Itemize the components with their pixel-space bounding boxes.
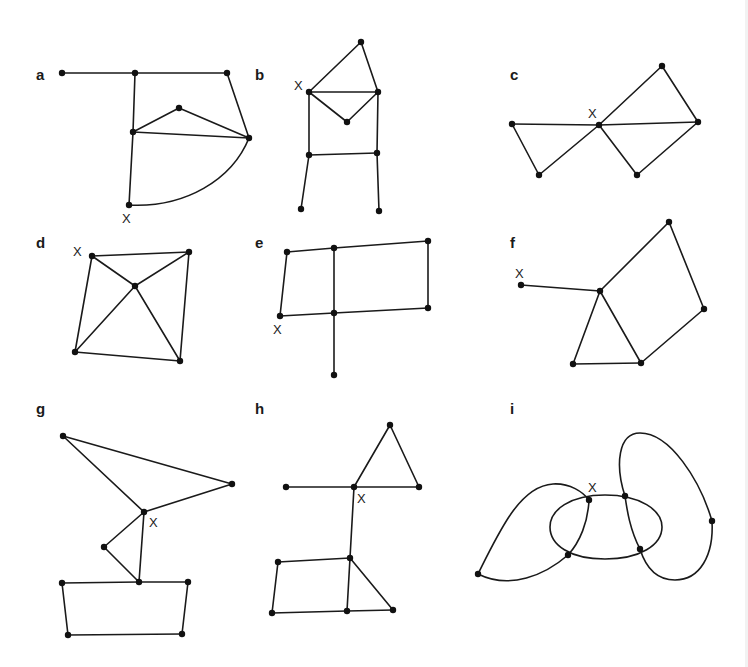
graph-vertex [176, 105, 182, 111]
graph-edge [669, 222, 704, 309]
graph-panel-c: cX [509, 63, 701, 178]
graph-edge [133, 132, 249, 138]
graph-edge [135, 252, 189, 286]
graph-figure: aXbXcXdXeXfXgXhXiX [0, 0, 748, 667]
graph-vertex [177, 358, 183, 364]
graph-vertex [374, 150, 380, 156]
graph-edge [144, 484, 232, 512]
graph-vertex [89, 253, 95, 259]
panel-label: f [510, 234, 516, 251]
graph-vertex [59, 70, 65, 76]
graph-vertex [186, 249, 192, 255]
panel-label: e [255, 234, 263, 251]
graph-vertex [298, 206, 304, 212]
graph-edge [139, 512, 144, 582]
graph-vertex [375, 89, 381, 95]
graph-edge [334, 241, 428, 248]
graph-vertex [269, 610, 275, 616]
graph-vertex [179, 631, 185, 637]
graph-vertex [331, 372, 337, 378]
graph-edge [599, 66, 662, 125]
graph-vertex [132, 283, 138, 289]
panel-label: c [510, 66, 518, 83]
graph-edge [539, 125, 599, 175]
panel-label: i [510, 400, 514, 417]
graph-edge [278, 558, 350, 562]
graph-edge [62, 582, 139, 583]
graph-vertex [60, 433, 66, 439]
graph-curved-edge [550, 495, 662, 559]
graph-edge [334, 308, 428, 313]
graph-edge [309, 92, 347, 122]
graph-edge [390, 425, 419, 487]
graph-panel-i: iX [475, 400, 715, 581]
graph-edge [280, 252, 287, 316]
start-vertex-marker: X [588, 480, 597, 495]
graph-edge [62, 583, 68, 635]
start-vertex-marker: X [273, 322, 282, 337]
graph-edge [347, 610, 393, 611]
graph-vertex [416, 484, 422, 490]
graph-edge [512, 124, 599, 125]
start-vertex-marker: X [294, 78, 303, 93]
graph-vertex [306, 152, 312, 158]
graph-vertex [347, 555, 353, 561]
graph-curved-edge [568, 500, 589, 555]
graph-edge [179, 108, 249, 138]
graph-edge [272, 562, 278, 613]
graph-vertex [695, 119, 701, 125]
graph-edge [133, 108, 179, 132]
graph-edge [662, 66, 698, 122]
graph-panel-f: fX [510, 219, 707, 367]
graph-edge [135, 286, 180, 361]
graph-vertex [275, 559, 281, 565]
start-vertex-marker: X [588, 106, 597, 121]
start-vertex-marker: X [73, 244, 82, 259]
graph-vertex [246, 135, 252, 141]
graph-curved-edge [620, 433, 712, 521]
graph-vertex [586, 497, 592, 503]
graph-edge [350, 558, 393, 610]
graph-panel-g: gX [36, 400, 235, 638]
panel-label: d [36, 234, 45, 251]
start-vertex-marker: X [122, 211, 131, 226]
start-vertex-marker: X [357, 491, 366, 506]
graph-vertex [536, 172, 542, 178]
graph-curved-edge [640, 521, 712, 580]
graph-vertex [597, 288, 603, 294]
graph-vertex [565, 552, 571, 558]
start-vertex-marker: X [149, 515, 158, 530]
graph-vertex [637, 546, 643, 552]
graph-curved-edge [478, 484, 589, 574]
graph-vertex [65, 632, 71, 638]
graph-edge [347, 558, 350, 611]
graph-edge [573, 363, 641, 364]
graph-edge [301, 155, 309, 209]
graph-edge [512, 124, 539, 175]
graph-vertex [518, 282, 524, 288]
graph-edge [350, 487, 354, 558]
graph-edge [133, 73, 135, 132]
graph-edge [361, 42, 378, 92]
graph-edge [600, 291, 641, 363]
graph-vertex [622, 493, 628, 499]
graph-vertex [101, 544, 107, 550]
graph-vertex [666, 219, 672, 225]
graph-vertex [638, 360, 644, 366]
graph-edge [75, 286, 135, 352]
graph-vertex [284, 249, 290, 255]
graph-vertex [224, 70, 230, 76]
graph-vertex [659, 63, 665, 69]
graph-vertex [634, 172, 640, 178]
graph-edge [309, 153, 377, 155]
graph-edge [521, 285, 600, 291]
graph-panel-h: hX [255, 400, 422, 616]
graph-edge [180, 252, 189, 361]
graph-vertex [229, 481, 235, 487]
graph-vertex [709, 518, 715, 524]
graph-vertex [130, 129, 136, 135]
graph-edge [600, 222, 669, 291]
graph-vertex [185, 579, 191, 585]
panel-label: b [255, 66, 264, 83]
start-vertex-marker: X [515, 266, 524, 281]
